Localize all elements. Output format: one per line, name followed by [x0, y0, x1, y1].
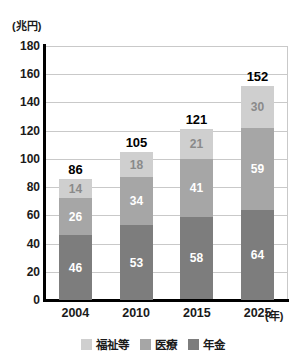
segment-value-label: 64	[251, 249, 264, 261]
segment-value-label: 18	[130, 159, 143, 171]
segment-value-label: 21	[190, 138, 203, 150]
segment-value-label: 58	[190, 252, 203, 264]
y-axis-line	[43, 44, 46, 302]
segment-value-label: 41	[190, 182, 203, 194]
bar-segment-medical-2015: 41	[180, 159, 213, 217]
x-tick-label-2025: 2025	[228, 306, 288, 320]
y-tick-label-120: 120	[2, 124, 40, 138]
bar-segment-medical-2025: 59	[241, 128, 274, 211]
x-tick-label-2015: 2015	[167, 306, 227, 320]
segment-value-label: 53	[130, 257, 143, 269]
bar-segment-welfare-2004: 14	[59, 179, 92, 199]
legend-item-年金: 年金	[188, 336, 225, 352]
y-tick-label-180: 180	[2, 39, 40, 53]
bar-segment-pension-2004: 46	[59, 235, 92, 300]
legend-item-医療: 医療	[140, 336, 177, 352]
x-tick-label-2004: 2004	[45, 306, 105, 320]
segment-value-label: 14	[69, 183, 82, 195]
legend-swatch	[140, 339, 151, 350]
y-tick-label-0: 0	[2, 293, 40, 307]
bar-segment-pension-2015: 58	[180, 217, 213, 299]
y-tick-label-100: 100	[2, 152, 40, 166]
legend-label: 医療	[155, 336, 177, 352]
segment-value-label: 46	[69, 262, 82, 274]
legend-swatch	[188, 339, 199, 350]
segment-value-label: 26	[69, 211, 82, 223]
bar-segment-welfare-2025: 30	[241, 86, 274, 128]
bar-2010: 183453	[120, 152, 153, 300]
segment-value-label: 30	[251, 101, 264, 113]
bar-2025: 305964	[241, 86, 274, 300]
y-tick-label-40: 40	[2, 237, 40, 251]
bar-segment-medical-2010: 34	[120, 177, 153, 225]
bar-2015: 214158	[180, 129, 213, 300]
bar-segment-medical-2004: 26	[59, 198, 92, 235]
segment-value-label: 59	[251, 163, 264, 175]
bar-segment-pension-2025: 64	[241, 210, 274, 300]
bar-group-2010: 183453105	[120, 0, 153, 300]
bar-segment-welfare-2015: 21	[180, 129, 213, 159]
y-tick-label-80: 80	[2, 180, 40, 194]
y-tick-label-20: 20	[2, 265, 40, 279]
bar-2004: 142646	[59, 179, 92, 300]
bar-total-label-2015: 121	[172, 113, 222, 126]
y-tick-label-60: 60	[2, 208, 40, 222]
bar-total-label-2004: 86	[51, 163, 101, 176]
bar-segment-pension-2010: 53	[120, 225, 153, 300]
legend-label: 年金	[203, 336, 225, 352]
bar-group-2004: 14264686	[59, 0, 92, 300]
x-tick-label-2010: 2010	[106, 306, 166, 320]
segment-value-label: 34	[130, 195, 143, 207]
bar-total-label-2025: 152	[233, 70, 283, 83]
y-tick-label-140: 140	[2, 95, 40, 109]
chart-legend: 福祉等医療年金	[0, 336, 306, 352]
legend-swatch	[81, 339, 92, 350]
legend-label: 福祉等	[96, 336, 129, 352]
bar-total-label-2010: 105	[112, 136, 162, 149]
bar-group-2025: 305964152	[241, 0, 274, 300]
y-axis-tick-labels: 020406080100120140160180	[0, 0, 40, 363]
bar-segment-welfare-2010: 18	[120, 152, 153, 177]
bar-group-2015: 214158121	[180, 0, 213, 300]
legend-item-福祉等: 福祉等	[81, 336, 129, 352]
stacked-bar-chart: (兆円) 020406080100120140160180 1426468618…	[0, 0, 306, 363]
y-tick-label-160: 160	[2, 67, 40, 81]
